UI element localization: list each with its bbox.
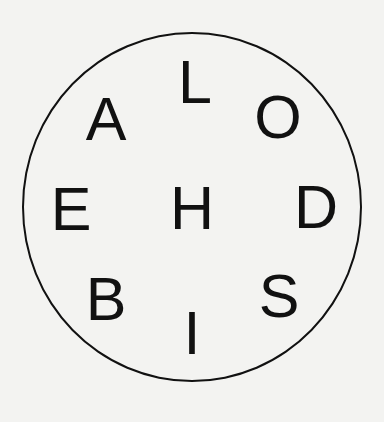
letter-i: I [184, 303, 201, 364]
letter-b: B [86, 269, 127, 330]
letter-o: O [254, 87, 301, 148]
letter-l: L [178, 52, 212, 113]
letter-h: H [170, 178, 214, 239]
letter-d: D [294, 177, 338, 238]
letter-e: E [51, 179, 92, 240]
letter-a: A [86, 89, 127, 150]
letter-s: S [259, 266, 300, 327]
